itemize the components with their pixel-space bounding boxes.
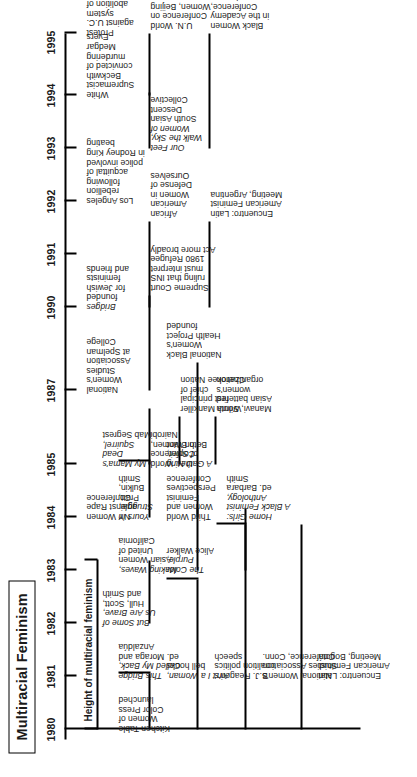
event-but-some-of-us-are-brave: But Some ofUs Are Brave,Hull, Scott,and … [102,589,155,627]
stub-1982-purple [166,577,198,579]
tick-1980 [64,727,360,729]
tick-1993 [64,146,76,148]
event-manavi: Manavi, SouthAsian batteredwomen'sorgani… [216,375,271,413]
year-label-1990: 1990 [44,295,56,319]
year-label-1983: 1983 [44,558,56,582]
event-african-american-women-in-defense: AfricanAmericanWomen inDefense ofOurselv… [150,170,192,218]
event-kitchen-table: Kitchen TableWomen ofColor Presslaunched [118,695,169,733]
tick-1982 [64,621,76,623]
event-encuentro-bogota: Encuentro: LatinAmerican FeministMeeting… [318,651,389,680]
leader-1993-black-women-academy [208,33,210,148]
tick-1994 [64,93,76,95]
leader-1994-un-beijing [148,33,150,95]
year-label-1993: 1993 [44,136,56,160]
bracket-label: Height of multiracial feminism [82,578,93,721]
timeline-canvas: Multiracial Feminism 1980 1981 1982 1983… [0,0,417,777]
event-third-world-women: Third WorldWomen andFeministPerspectives… [166,473,215,521]
event-home-girls: Home Girls:A Black FeministAnthology,ed.… [226,473,290,521]
tick-1984 [64,515,76,517]
tick-1985 [64,462,76,464]
event-black-women-in-the-academy: Black Womenin the AcademyConference,Mass… [210,0,269,30]
year-label-1980: 1980 [44,717,56,741]
tick-1995 [64,31,76,33]
tick-1981 [64,674,76,676]
tick-1990 [64,305,76,307]
year-label-1985: 1985 [44,452,56,476]
tick-1992 [64,199,76,201]
leader-1985-manavi [214,416,216,464]
rotation-wrapper: Multiracial Feminism 1980 1981 1982 1983… [0,0,417,777]
leader-1981-aint [196,579,198,729]
rotated-page-frame: Multiracial Feminism 1980 1981 1982 1983… [0,0,417,777]
year-label-1992: 1992 [44,189,56,213]
event-nwsa-spelman: NationalWomen'sStudiesAssociationat Spel… [86,336,130,394]
event-our-feet-walk-the-sky: Our FeetWalk the Sky,Women ofSouth Asian… [150,94,202,152]
event-my-mamas-dead-squirrel: My Mama'sDeadSquirrel,Mab Segrest [102,430,151,468]
tick-1991 [64,252,76,254]
event-yours-in-struggle: Yours inStruggle,Pratt,Bulkin,Smith [118,473,152,521]
year-label-1991: 1991 [44,242,56,266]
page-title: Multiracial Feminism [8,580,35,753]
year-label-1984: 1984 [44,505,56,529]
year-label-1987: 1987 [44,378,56,402]
leader-1993-our-feet [148,92,150,148]
year-label-1982: 1982 [44,611,56,635]
event-un-nairobi: U.N. WorldConferenceon Women,Nairobi [150,430,194,468]
timeline-axis [64,33,66,739]
year-label-1981: 1981 [44,664,56,688]
event-making-waves: Making Waves,Asian WomenUnited ofCalifor… [118,536,177,574]
tick-1987 [64,388,76,390]
stub-1983-home [216,522,246,524]
event-national-black-womens-health-project: National BlackWomen'sHealth Projectfound… [166,321,221,359]
leader-1981-encuentro [300,524,302,729]
event-un-beijing: U.N. WorldConference onWomen, Beijing [150,1,210,30]
event-bridges: Bridgesfoundedfor Jewishfeministsand fri… [86,263,129,311]
event-encuentro-argentina: Encuentro: LatinAmerican FeministMeeting… [210,189,282,218]
event-supreme-court-ins: Supreme Courtruling that INSmust interpr… [150,244,215,292]
event-beckwith-convicted: WhiteSupremacistBeckwithconvicted ofmurd… [86,32,134,99]
event-la-rebellion: Los Angelesrebellionfollowingacquittal o… [86,138,144,205]
leader-1987-supreme [148,295,150,390]
event-protest-uc-affirmative-action: Protestagainst U.C.systemabolition ofaff… [86,0,133,37]
year-label-1995: 1995 [44,30,56,54]
tick-1983 [64,568,76,570]
year-label-1994: 1994 [44,83,56,107]
